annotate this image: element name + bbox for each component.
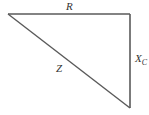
impedance-hypotenuse <box>8 14 130 108</box>
label-z: Z <box>56 62 63 74</box>
label-c-subscript: C <box>142 58 148 67</box>
label-r: R <box>65 0 73 12</box>
label-xc: XC <box>134 52 148 67</box>
impedance-triangle-diagram: R Z XC <box>0 0 149 115</box>
